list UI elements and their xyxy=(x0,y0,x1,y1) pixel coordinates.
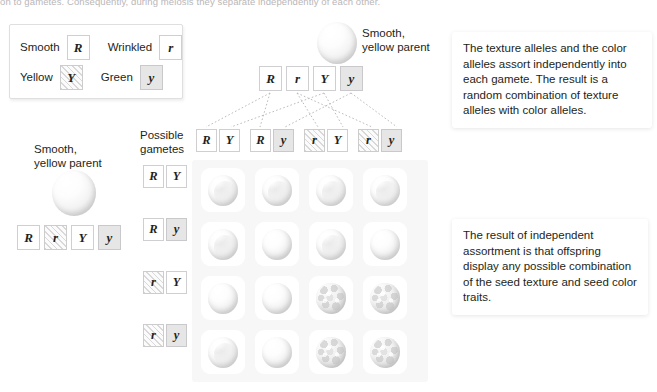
top-parent-genotype: R r Y y xyxy=(259,66,363,91)
punnett-column-headers: R Y R y r Y r y xyxy=(196,129,402,152)
offspring-seed-smooth xyxy=(316,229,346,260)
offspring-seed-smooth xyxy=(208,175,238,206)
callout-offspring-result: The result of independent assortment is … xyxy=(452,219,648,315)
key-allele-r: r xyxy=(159,35,182,60)
punnett-cell-r3c1 xyxy=(250,325,304,379)
offspring-seed-smooth xyxy=(262,337,292,368)
offspring-seed-wrinkled xyxy=(316,337,346,368)
punnett-cell-r2c1 xyxy=(250,271,304,325)
offspring-seed-smooth xyxy=(208,229,238,260)
row-gamete-3: r y xyxy=(143,324,187,347)
row-gamete-0: R Y xyxy=(143,165,187,188)
offspring-seed-smooth xyxy=(208,337,238,368)
offspring-seed-smooth xyxy=(262,175,292,206)
possible-gametes-label: Possible gametes xyxy=(140,128,184,156)
top-parent-seed-icon xyxy=(317,22,357,64)
punnett-cell-r0c3 xyxy=(358,163,412,217)
column-gamete-3-color: y xyxy=(381,129,402,152)
left-parent-allele-1: r xyxy=(44,225,67,250)
top-parent-label-line1: Smooth, xyxy=(362,26,430,40)
punnett-row-headers: R Y R y r Y r y xyxy=(143,165,187,347)
left-parent-label-line2: yellow parent xyxy=(34,156,102,170)
callout-top-text: The texture alleles and the color allele… xyxy=(463,41,641,119)
possible-gametes-line2: gametes xyxy=(140,142,184,156)
punnett-cell-r3c3 xyxy=(358,325,412,379)
top-parent-allele-1: r xyxy=(286,66,309,91)
offspring-seed-smooth xyxy=(370,175,400,206)
key-label-green: Green xyxy=(101,71,133,83)
key-allele-y: y xyxy=(140,65,163,90)
offspring-seed-wrinkled xyxy=(316,283,346,314)
top-parent-allele-0: R xyxy=(259,66,282,91)
top-parent-label: Smooth, yellow parent xyxy=(362,26,430,54)
column-gamete-2-texture: r xyxy=(304,129,325,152)
left-parent-genotype: R r Y y xyxy=(17,225,121,250)
punnett-cell-r0c0 xyxy=(196,163,250,217)
page-caption-fragment: on to gametes. Consequently, during meio… xyxy=(0,0,430,8)
punnett-cell-r2c3 xyxy=(358,271,412,325)
callout-bottom-text: The result of independent assortment is … xyxy=(463,228,637,306)
punnett-cell-r0c1 xyxy=(250,163,304,217)
column-gamete-2-color: Y xyxy=(327,129,348,152)
left-parent-seed-icon xyxy=(52,170,96,216)
row-gamete-1-color: y xyxy=(166,218,187,241)
row-gamete-0-color: Y xyxy=(166,165,187,188)
punnett-offspring-grid xyxy=(196,163,412,379)
key-label-smooth: Smooth xyxy=(20,41,60,53)
column-gamete-0-texture: R xyxy=(196,129,217,152)
punnett-cell-r3c2 xyxy=(304,325,358,379)
column-gamete-3: r y xyxy=(358,129,402,152)
column-gamete-1-color: y xyxy=(273,129,294,152)
column-gamete-1-texture: R xyxy=(250,129,271,152)
row-gamete-2-texture: r xyxy=(143,271,164,294)
row-gamete-1-texture: R xyxy=(143,218,164,241)
row-gamete-2-color: Y xyxy=(166,271,187,294)
key-label-yellow: Yellow xyxy=(20,71,53,83)
punnett-cell-r3c0 xyxy=(196,325,250,379)
offspring-seed-smooth xyxy=(262,229,292,260)
offspring-seed-wrinkled xyxy=(370,283,400,314)
punnett-cell-r1c2 xyxy=(304,217,358,271)
row-gamete-3-texture: r xyxy=(143,324,164,347)
independent-assortment-diagram: on to gametes. Consequently, during meio… xyxy=(0,0,657,392)
offspring-seed-smooth xyxy=(262,283,292,314)
offspring-seed-smooth xyxy=(316,175,346,206)
top-parent-label-line2: yellow parent xyxy=(362,40,430,54)
offspring-seed-smooth xyxy=(208,283,238,314)
top-parent-allele-2: Y xyxy=(313,66,336,91)
column-gamete-0: R Y xyxy=(196,129,240,152)
punnett-cell-r2c0 xyxy=(196,271,250,325)
key-allele-R: R xyxy=(67,35,90,60)
row-gamete-1: R y xyxy=(143,218,187,241)
column-gamete-1: R y xyxy=(250,129,294,152)
key-row-color: Yellow Y Green y xyxy=(20,63,163,91)
punnett-cell-r0c2 xyxy=(304,163,358,217)
punnett-cell-r2c2 xyxy=(304,271,358,325)
left-parent-label-line1: Smooth, xyxy=(34,142,102,156)
row-gamete-2: r Y xyxy=(143,271,187,294)
left-parent-allele-0: R xyxy=(17,225,40,250)
column-gamete-3-texture: r xyxy=(358,129,379,152)
row-gamete-0-texture: R xyxy=(143,165,164,188)
key-row-texture: Smooth R Wrinkled r xyxy=(20,33,182,61)
left-parent-allele-2: Y xyxy=(71,225,94,250)
row-gamete-3-color: y xyxy=(166,324,187,347)
callout-independent-assortment: The texture alleles and the color allele… xyxy=(452,32,652,128)
column-gamete-0-color: Y xyxy=(219,129,240,152)
left-parent-label: Smooth, yellow parent xyxy=(34,142,102,170)
possible-gametes-line1: Possible xyxy=(140,128,184,142)
offspring-seed-wrinkled xyxy=(370,337,400,368)
allele-key-box: Smooth R Wrinkled r Yellow Y Green y xyxy=(9,24,183,99)
punnett-cell-r1c3 xyxy=(358,217,412,271)
key-label-wrinkled: Wrinkled xyxy=(108,41,153,53)
punnett-cell-r1c0 xyxy=(196,217,250,271)
top-parent-allele-3: y xyxy=(340,66,363,91)
column-gamete-2: r Y xyxy=(304,129,348,152)
key-allele-Y: Y xyxy=(60,65,83,90)
left-parent-allele-3: y xyxy=(98,225,121,250)
offspring-seed-smooth xyxy=(370,229,400,260)
punnett-cell-r1c1 xyxy=(250,217,304,271)
